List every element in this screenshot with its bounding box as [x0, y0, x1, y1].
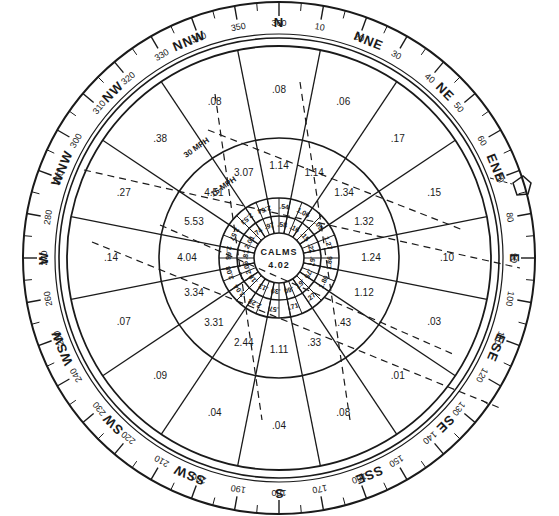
innermost-ring-value: .58 — [277, 221, 287, 229]
degree-tick — [132, 461, 137, 468]
innermost-ring-value: .13 — [257, 282, 269, 293]
degree-label: 170 — [311, 483, 328, 495]
outer-value-w: .14 — [104, 252, 118, 263]
degree-tick — [454, 433, 460, 439]
degree-label: 40 — [423, 71, 437, 85]
outer-value-e: .10 — [440, 252, 454, 263]
degree-tick — [32, 192, 40, 194]
inner-ring-value: 1.06 — [296, 206, 311, 219]
degree-tick — [191, 17, 196, 30]
degree-tick — [213, 11, 215, 19]
direction-label-ne: NE — [433, 79, 458, 104]
calms-center: CALMS 4.02 — [261, 247, 298, 270]
ring-circle — [59, 38, 499, 478]
degree-tick — [343, 11, 345, 19]
degree-tick — [321, 496, 323, 510]
outer-value-ese: .03 — [427, 316, 441, 327]
degree-label: 60 — [475, 134, 489, 148]
degree-label: 10 — [314, 21, 326, 33]
inner-ring-value: .57 — [269, 305, 279, 313]
innermost-ring-value: .74 — [252, 226, 264, 238]
ring-circle — [55, 34, 503, 482]
direction-label-ssw: SSW — [171, 462, 207, 488]
outer-value-sse: .08 — [336, 407, 350, 418]
inner-ring-value: 3.04 — [232, 283, 246, 298]
outer-value-nw: .38 — [153, 133, 167, 144]
inner-ring-value: .71 — [288, 301, 299, 311]
degree-tick — [114, 443, 123, 454]
degree-tick — [114, 62, 123, 73]
outer-value-wsw: .07 — [117, 316, 131, 327]
calms-value: 4.02 — [268, 260, 290, 270]
degree-tick — [47, 150, 54, 153]
inner-ring-value: 1.80 — [317, 274, 330, 289]
sector-spokes — [71, 50, 487, 466]
middle-value-sse: .33 — [307, 337, 321, 348]
degree-tick — [57, 379, 69, 386]
degree-tick — [517, 300, 531, 302]
calms-label: CALMS — [261, 247, 298, 257]
middle-value-nne: 1.14 — [304, 167, 324, 178]
outer-value-nne: .06 — [336, 96, 350, 107]
dashed-line — [208, 130, 463, 230]
degree-label: 330 — [153, 47, 171, 63]
degree-tick — [235, 6, 237, 20]
degree-tick — [38, 341, 51, 346]
inner-ring-value: .54 — [279, 203, 289, 211]
degree-tick — [435, 62, 444, 73]
middle-value-e: 1.24 — [361, 252, 381, 263]
direction-label-n: N — [274, 15, 284, 30]
direction-label-ene: ENE — [484, 151, 509, 184]
degree-label: 100 — [504, 290, 516, 307]
degree-tick — [83, 414, 94, 423]
degree-tick — [362, 17, 367, 30]
innermost-ring-value: .75 — [303, 268, 314, 280]
degree-tick — [257, 3, 258, 11]
degree-tick — [24, 280, 32, 281]
middle-value-n: 1.14 — [269, 160, 289, 171]
dashed-grid-lines — [84, 82, 520, 420]
outer-value-sw: .09 — [153, 370, 167, 381]
direction-label-w: W — [36, 251, 51, 264]
degree-tick — [301, 3, 302, 11]
degree-tick — [384, 483, 387, 490]
degree-label: 240 — [68, 366, 84, 384]
direction-label-ese: ESE — [484, 332, 509, 365]
middle-value-nnw: 3.07 — [234, 167, 254, 178]
degree-tick — [235, 496, 237, 510]
middle-value-ssw: 2.44 — [234, 337, 254, 348]
degree-tick — [362, 485, 367, 498]
degree-tick — [257, 505, 258, 513]
speed-label-outer: 30 MPH — [182, 136, 211, 160]
direction-label-nnw: NNW — [170, 27, 207, 54]
degree-tick — [506, 341, 519, 346]
wind-rose-diagram: 3601020304050607080901001101201301401501… — [0, 0, 559, 516]
degree-tick — [384, 26, 387, 33]
innermost-ring-value: .15 — [299, 231, 311, 243]
degree-tick — [151, 36, 158, 48]
middle-value-ene: 1.32 — [354, 216, 374, 227]
degree-tick — [98, 77, 104, 83]
innermost-ring-value: .67 — [308, 256, 316, 266]
direction-label-se: SE — [433, 412, 457, 436]
inner-ring-value: 2.53 — [240, 212, 255, 226]
degree-label: 260 — [42, 290, 54, 307]
degree-tick — [506, 170, 519, 175]
degree-tick — [343, 498, 345, 506]
degree-tick — [213, 498, 215, 506]
degree-label: 30 — [389, 48, 403, 62]
degree-tick — [435, 443, 444, 454]
degree-tick — [32, 322, 40, 324]
innermost-ring-value: .16 — [289, 223, 301, 234]
inner-ring-value: 1.86 — [325, 256, 333, 270]
degree-tick — [132, 48, 137, 55]
outer-value-wnw: .27 — [117, 187, 131, 198]
innermost-ring-value: .39 — [270, 287, 280, 295]
degree-tick — [489, 379, 501, 386]
degree-ticks — [23, 2, 535, 514]
degree-label: 80 — [504, 211, 516, 223]
direction-label-wsw: WSW — [48, 328, 76, 367]
degree-tick — [482, 111, 489, 116]
degree-tick — [464, 414, 475, 423]
middle-value-wnw: 5.53 — [184, 216, 204, 227]
